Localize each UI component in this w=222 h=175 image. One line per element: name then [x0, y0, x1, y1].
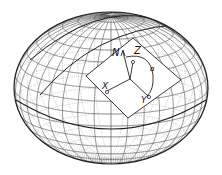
- y-endpoint-icon: [147, 95, 150, 98]
- z-endpoint-icon: [131, 60, 134, 63]
- label-x: X: [101, 81, 109, 91]
- label-alpha: α: [150, 65, 155, 73]
- label-north: N: [112, 47, 120, 58]
- diagram-canvas: N Z X Y α: [0, 0, 222, 175]
- label-zenith: Z: [133, 45, 142, 56]
- ellipsoid-diagram: N Z X Y α: [0, 0, 222, 175]
